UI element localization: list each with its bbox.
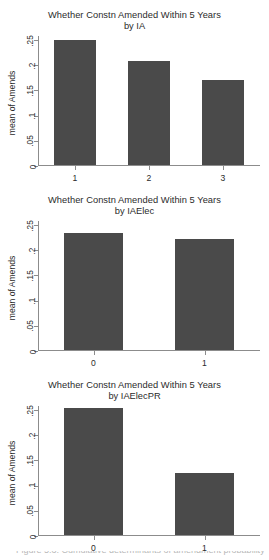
x-axis-line — [38, 535, 260, 536]
y-axis-label: mean of Amends — [6, 40, 18, 166]
chart-title: Whether Constn Amended Within 5 Years — [0, 195, 269, 206]
figure-caption-clipped: Figure 5.3: Cumulative determinants of a… — [0, 551, 269, 560]
y-axis-line — [38, 36, 39, 166]
y-tick-label: .1 — [28, 113, 37, 120]
y-tick-label: .2 — [28, 62, 37, 69]
y-tick-label: .25 — [26, 220, 35, 231]
x-tick-mark — [94, 351, 95, 355]
y-axis-line — [38, 221, 39, 351]
x-tick-mark — [75, 166, 76, 170]
y-tick-label: .2 — [28, 432, 37, 439]
y-axis-label-text: mean of Amends — [7, 441, 17, 506]
y-axis-line — [38, 406, 39, 536]
y-axis-label: mean of Amends — [6, 410, 18, 536]
y-tick-label: .25 — [26, 405, 35, 416]
y-tick-label: .05 — [26, 506, 35, 517]
panel-title-block: Whether Constn Amended Within 5 Years by… — [0, 10, 269, 32]
y-tick-label: .05 — [26, 321, 35, 332]
x-tick-label: 3 — [221, 173, 226, 183]
plot-area: 0.05.1.15.2.2501 — [38, 225, 260, 351]
x-axis-line — [38, 350, 260, 351]
y-tick-label: 0 — [29, 534, 38, 539]
panel-title-block: Whether Constn Amended Within 5 Years by… — [0, 380, 269, 402]
chart-title: Whether Constn Amended Within 5 Years — [0, 10, 269, 21]
y-tick-label: 0 — [29, 349, 38, 354]
chart-panel-ia: Whether Constn Amended Within 5 Years by… — [0, 0, 269, 185]
x-tick-mark — [149, 166, 150, 170]
y-tick-label: .1 — [28, 298, 37, 305]
y-axis-label-text: mean of Amends — [7, 256, 17, 321]
bar — [64, 233, 124, 350]
chart-subtitle: by IAElecPR — [0, 391, 269, 402]
x-tick-label: 1 — [73, 173, 78, 183]
plot-area: 0.05.1.15.2.2501 — [38, 410, 260, 536]
bar — [128, 61, 169, 165]
y-tick-label: .15 — [26, 85, 35, 96]
y-axis-label: mean of Amends — [6, 225, 18, 351]
figure-three-bar-panels: Whether Constn Amended Within 5 Years by… — [0, 0, 269, 560]
plot-area: 0.05.1.15.2.25123 — [38, 40, 260, 166]
bar — [54, 40, 95, 165]
x-tick-mark — [94, 536, 95, 540]
bar — [64, 408, 124, 536]
bar — [175, 473, 235, 535]
chart-subtitle: by IAElec — [0, 206, 269, 217]
figure-caption-text: Figure 5.3: Cumulative determinants of a… — [0, 551, 269, 555]
x-tick-label: 1 — [202, 358, 207, 368]
x-tick-mark — [223, 166, 224, 170]
chart-title: Whether Constn Amended Within 5 Years — [0, 380, 269, 391]
y-tick-label: .2 — [28, 247, 37, 254]
x-tick-label: 2 — [147, 173, 152, 183]
y-tick-label: .05 — [26, 136, 35, 147]
y-tick-label: .1 — [28, 483, 37, 490]
y-tick-label: .25 — [26, 35, 35, 46]
x-tick-mark — [205, 536, 206, 540]
panel-title-block: Whether Constn Amended Within 5 Years by… — [0, 195, 269, 217]
chart-panel-iaelec: Whether Constn Amended Within 5 Years by… — [0, 185, 269, 370]
chart-subtitle: by IA — [0, 21, 269, 32]
y-axis-label-text: mean of Amends — [7, 71, 17, 136]
x-tick-label: 0 — [91, 358, 96, 368]
bar — [175, 239, 235, 350]
x-tick-mark — [205, 351, 206, 355]
y-tick-label: .15 — [26, 270, 35, 281]
y-tick-label: .15 — [26, 455, 35, 466]
bar — [202, 80, 243, 165]
chart-panel-iaelecpr: Whether Constn Amended Within 5 Years by… — [0, 370, 269, 555]
y-tick-label: 0 — [29, 164, 38, 169]
